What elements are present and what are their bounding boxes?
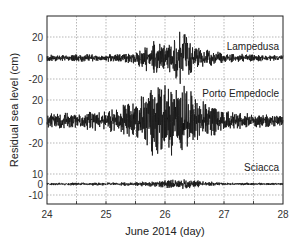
x-tick-label: 28 (277, 209, 289, 220)
y-tick-label: 20 (32, 32, 44, 43)
sea-level-chart: 200-20200-20100-10 2425262728 LampedusaP… (0, 0, 302, 249)
y-tick-label: -10 (29, 190, 44, 201)
y-tick-label: -20 (29, 138, 44, 149)
station-label-lampedusa: Lampedusa (227, 41, 280, 52)
y-tick-label: 0 (37, 53, 43, 64)
station-label-sciacca: Sciacca (244, 162, 279, 173)
y-tick-label: 0 (37, 179, 43, 190)
y-tick-label: 0 (37, 116, 43, 127)
x-tick-label: 24 (41, 209, 53, 220)
y-tick-labels: 200-20200-20100-10 (29, 32, 44, 201)
x-tick-label: 26 (159, 209, 171, 220)
x-axis-label: June 2014 (day) (125, 225, 205, 237)
y-tick-label: -20 (29, 74, 44, 85)
station-label-porto-empedocle: Porto Empedocle (202, 88, 279, 99)
y-axis-label: Residual sea level (cm) (8, 53, 20, 167)
x-tick-label: 25 (100, 209, 112, 220)
y-tick-label: 20 (32, 95, 44, 106)
x-tick-label: 27 (218, 209, 230, 220)
